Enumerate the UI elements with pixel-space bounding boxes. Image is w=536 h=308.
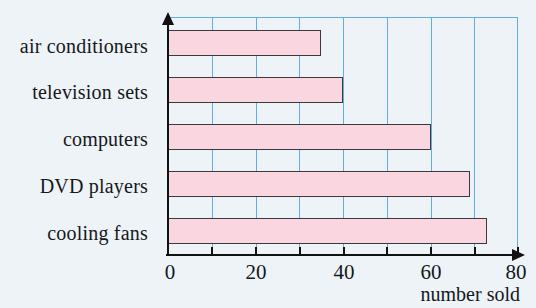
xtick-mark-20: [255, 247, 257, 255]
xtick-label-80: 80: [506, 261, 527, 283]
xtick-mark-30: [299, 247, 301, 255]
gridline-80: [517, 17, 518, 255]
category-label-dvd-players: DVD players: [40, 176, 148, 196]
category-label-cooling-fans: cooling fans: [47, 223, 148, 243]
xtick-label-40: 40: [334, 261, 355, 283]
plot-area: [168, 17, 518, 255]
bar-cooling-fans: [168, 218, 487, 244]
xtick-mark-70: [474, 247, 476, 255]
xtick-label-20: 20: [246, 261, 267, 283]
xtick-mark-60: [430, 247, 432, 255]
xtick-label-0: 0: [165, 261, 176, 283]
xtick-mark-0: [167, 247, 169, 255]
xtick-label-60: 60: [421, 261, 442, 283]
bar-computers: [168, 124, 431, 150]
xtick-mark-10: [211, 247, 213, 255]
xtick-mark-40: [343, 247, 345, 255]
category-label-television-sets: television sets: [32, 82, 148, 102]
bar-television-sets: [168, 77, 343, 103]
xtick-mark-80: [517, 247, 519, 255]
x-axis-title: number sold: [421, 284, 520, 304]
bar-chart: air conditioners television sets compute…: [0, 0, 536, 308]
bar-dvd-players: [168, 171, 470, 197]
y-axis-arrow-icon: [162, 12, 174, 25]
xtick-mark-50: [386, 247, 388, 255]
category-label-air-conditioners: air conditioners: [20, 36, 148, 56]
y-axis-line: [167, 22, 169, 256]
x-axis-line: [166, 254, 514, 256]
bar-air-conditioners: [168, 30, 321, 56]
category-label-computers: computers: [63, 129, 148, 149]
